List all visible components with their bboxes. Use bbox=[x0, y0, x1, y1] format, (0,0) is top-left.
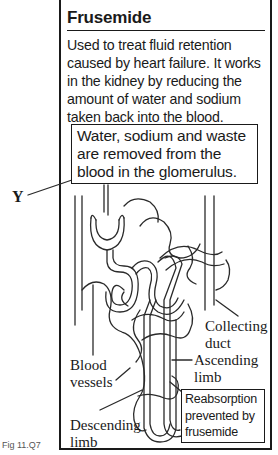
label-collecting-duct-line1: Collecting bbox=[205, 318, 268, 335]
label-blood-vessels-line2: vessels bbox=[70, 374, 113, 391]
label-ascending-limb-line1: Ascending bbox=[194, 352, 258, 369]
label-collecting-duct-line2: duct bbox=[205, 335, 231, 352]
figure-caption: Fig 11.Q7 bbox=[2, 440, 41, 450]
glomerulus-note: Water, sodium and waste are removed from… bbox=[71, 124, 258, 184]
label-descending-limb-line1: Descending bbox=[70, 417, 141, 434]
label-ascending-limb-line2: limb bbox=[194, 369, 222, 386]
label-descending-limb-line2: limb bbox=[70, 434, 98, 451]
nephron-diagram bbox=[0, 0, 278, 455]
label-y: Y bbox=[12, 188, 24, 206]
label-blood-vessels-line1: Blood bbox=[70, 357, 107, 374]
reabsorption-note: Reabsorption prevented by frusemide bbox=[181, 389, 265, 443]
